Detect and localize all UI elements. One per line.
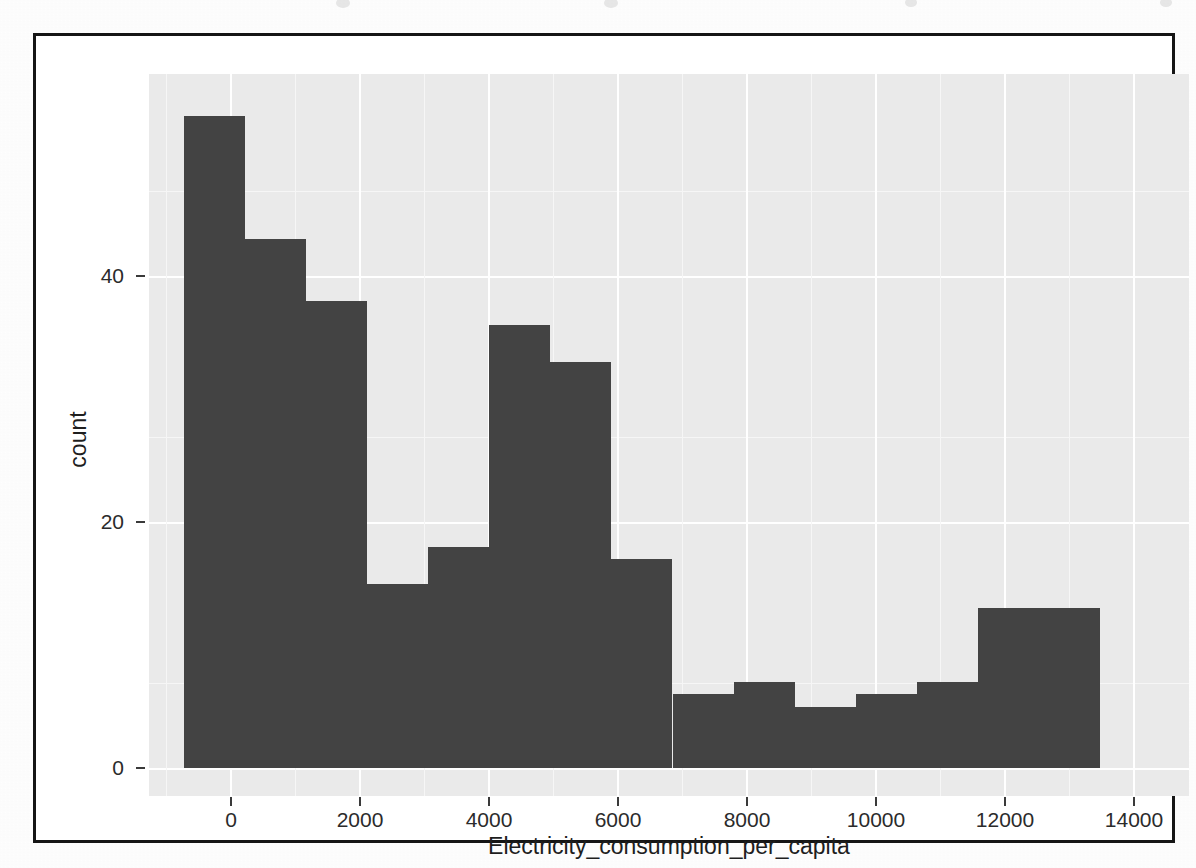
x-tick-label-8000: 8000 [687, 808, 807, 832]
x-tick-mark-0 [230, 797, 232, 806]
y-tick-label-0: 0 [56, 756, 124, 780]
plot-panel [149, 74, 1189, 796]
x-tick-mark-12000 [1004, 797, 1006, 806]
gridline-major-h-0 [149, 768, 1189, 770]
histogram-bar [306, 301, 367, 768]
gridline-minor-h [149, 191, 1189, 192]
scan-artifact [905, 0, 917, 7]
x-tick-label-6000: 6000 [558, 808, 678, 832]
scan-artifact [1160, 0, 1172, 7]
x-tick-mark-6000 [617, 797, 619, 806]
x-tick-label-4000: 4000 [429, 808, 549, 832]
histogram-bar [917, 682, 978, 768]
histogram-bar [489, 325, 550, 768]
histogram-bar [550, 362, 611, 768]
histogram-bar [673, 694, 734, 768]
histogram-bar [611, 559, 672, 768]
y-tick-label-40: 40 [56, 264, 124, 288]
x-tick-label-2000: 2000 [300, 808, 420, 832]
scan-artifact [604, 0, 618, 8]
scanned-page: 40 20 0 0 2000 4000 6000 8000 10000 1200… [0, 0, 1196, 868]
histogram-bar [184, 116, 245, 768]
x-tick-mark-14000 [1133, 797, 1135, 806]
histogram-bar [428, 547, 489, 768]
x-tick-label-10000: 10000 [816, 808, 936, 832]
scan-artifact [336, 0, 350, 8]
y-tick-label-20: 20 [56, 510, 124, 534]
y-axis-title: count [65, 380, 92, 500]
x-tick-label-0: 0 [171, 808, 291, 832]
histogram-bar [734, 682, 795, 768]
x-axis-title: Electricity_consumption_per_capita [149, 833, 1189, 860]
histogram-bar [795, 707, 856, 769]
x-tick-mark-8000 [746, 797, 748, 806]
histogram-bar [856, 694, 917, 768]
y-tick-mark-20 [136, 521, 145, 523]
histogram-bar [245, 239, 306, 768]
y-tick-mark-40 [136, 275, 145, 277]
gridline-minor-v [166, 74, 167, 796]
histogram-bar [367, 584, 428, 769]
x-tick-mark-4000 [488, 797, 490, 806]
gridline-minor-v [811, 74, 812, 796]
x-tick-mark-2000 [359, 797, 361, 806]
x-tick-label-14000: 14000 [1074, 808, 1194, 832]
histogram-bar [978, 608, 1100, 768]
gridline-minor-v [682, 74, 683, 796]
x-tick-label-12000: 12000 [945, 808, 1065, 832]
figure-border: 40 20 0 0 2000 4000 6000 8000 10000 1200… [33, 33, 1175, 843]
x-tick-mark-10000 [875, 797, 877, 806]
gridline-major-v-10000 [875, 74, 877, 796]
gridline-major-v-14000 [1133, 74, 1135, 796]
y-tick-mark-0 [136, 767, 145, 769]
